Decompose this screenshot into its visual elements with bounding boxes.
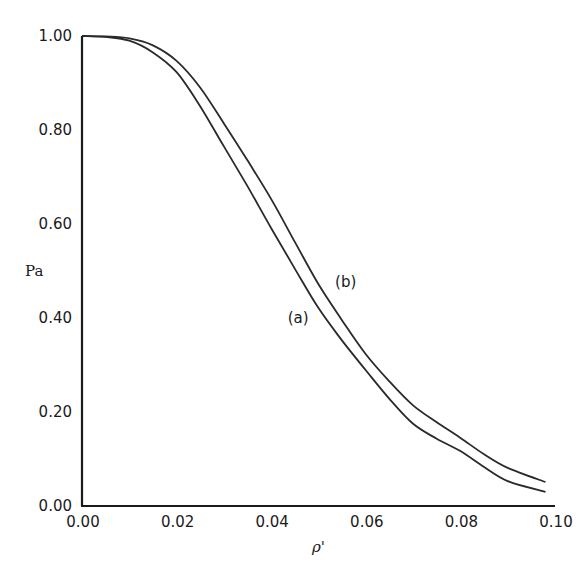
y-tick-labels: 0.000.200.400.600.801.00: [39, 27, 72, 515]
y-tick-label: 0.80: [39, 121, 72, 139]
series-labels: (a)(b): [288, 273, 357, 326]
chart-canvas: 0.000.200.400.600.801.00 0.000.020.040.0…: [0, 0, 588, 584]
y-tick-label: 1.00: [39, 27, 72, 45]
series-label-a: (a): [288, 309, 309, 327]
y-axis-label: Pa: [25, 262, 43, 280]
series-label-b: (b): [335, 273, 356, 291]
y-tick-label: 0.20: [39, 403, 72, 421]
curves-group: [82, 36, 546, 492]
axes-group: [81, 36, 555, 506]
x-tick-label: 0.08: [445, 513, 478, 531]
curve-b: [82, 36, 546, 482]
x-tick-label: 0.02: [161, 513, 194, 531]
x-tick-label: 0.10: [539, 513, 572, 531]
y-tick-label: 0.40: [39, 309, 72, 327]
curve-a: [82, 36, 546, 492]
x-tick-label: 0.04: [255, 513, 288, 531]
x-tick-label: 0.06: [350, 513, 383, 531]
x-axis-label: ρ': [311, 538, 325, 556]
y-tick-label: 0.60: [39, 215, 72, 233]
x-tick-label: 0.00: [66, 513, 99, 531]
x-tick-labels: 0.000.020.040.060.080.10: [66, 513, 572, 531]
